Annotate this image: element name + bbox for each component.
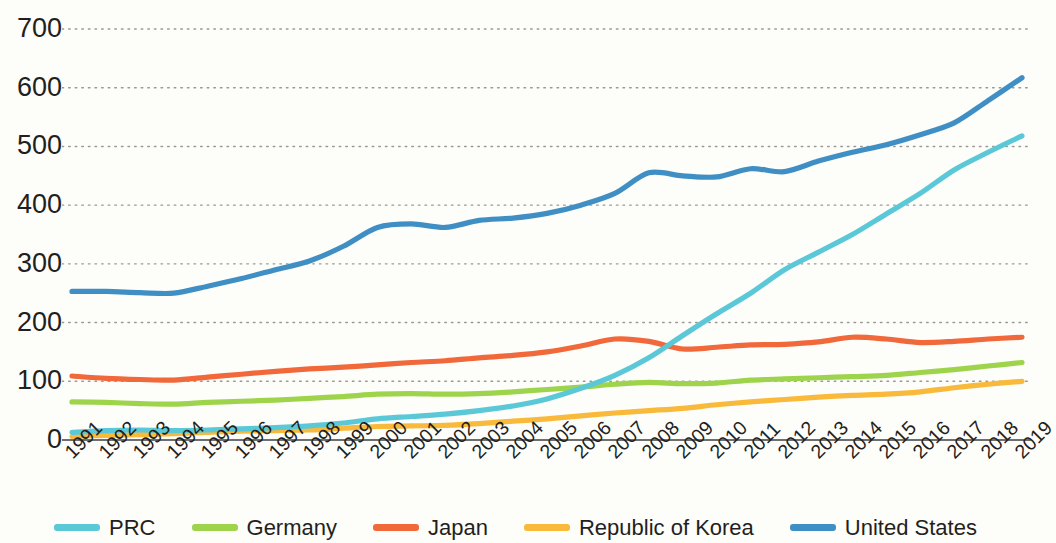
y-tick-label: 200 [14, 309, 62, 336]
x-axis: 1991199219931994199519961997199819992000… [0, 441, 1031, 511]
legend-label: PRC [109, 515, 155, 541]
chart-svg [62, 0, 1031, 460]
y-tick-label: 600 [14, 74, 62, 101]
legend-swatch-icon [54, 524, 100, 531]
legend-swatch-icon [373, 524, 419, 531]
legend-item-japan[interactable]: Japan [373, 515, 488, 541]
y-tick-label: 400 [14, 191, 62, 218]
y-tick-label: 700 [14, 15, 62, 42]
legend-label: United States [845, 515, 977, 541]
chart-legend: PRCGermanyJapanRepublic of KoreaUnited S… [0, 512, 1031, 543]
y-tick-label: 500 [14, 132, 62, 159]
y-tick-label: 100 [14, 367, 62, 394]
y-axis: 7006005004003002001000 [0, 0, 62, 460]
series-line-united-states [72, 78, 1022, 294]
legend-swatch-icon [192, 524, 238, 531]
legend-swatch-icon [524, 524, 570, 531]
legend-item-republic-of-korea[interactable]: Republic of Korea [524, 515, 754, 541]
legend-label: Japan [428, 515, 488, 541]
legend-label: Germany [247, 515, 337, 541]
legend-item-germany[interactable]: Germany [192, 515, 337, 541]
legend-item-united-states[interactable]: United States [790, 515, 977, 541]
y-tick-label: 300 [14, 250, 62, 277]
plot-area [62, 0, 1031, 460]
legend-swatch-icon [790, 524, 836, 531]
legend-label: Republic of Korea [579, 515, 754, 541]
legend-item-prc[interactable]: PRC [54, 515, 155, 541]
